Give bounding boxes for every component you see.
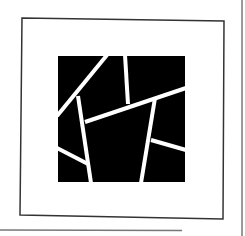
black-square xyxy=(58,56,185,182)
geometric-diagram xyxy=(0,0,245,236)
bottom-outer-line xyxy=(0,230,182,231)
